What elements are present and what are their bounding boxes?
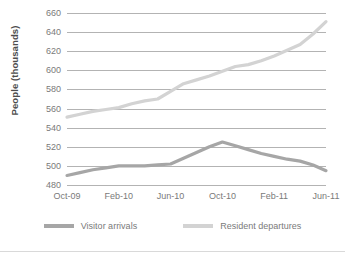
y-axis-title: People (thousands) <box>9 0 20 151</box>
x-axis-tick-label: Jun-10 <box>157 191 185 201</box>
gridline <box>67 185 326 186</box>
series-lines <box>67 13 326 185</box>
legend-item-resident-departures[interactable]: Resident departures <box>183 221 301 231</box>
chart-legend: Visitor arrivalsResident departures <box>0 221 345 231</box>
y-axis-tick-label: 520 <box>46 142 61 152</box>
legend-label: Visitor arrivals <box>81 221 137 231</box>
y-axis-tick-label: 600 <box>46 65 61 75</box>
legend-label: Resident departures <box>220 221 301 231</box>
x-axis-tick-label: Feb-10 <box>105 191 134 201</box>
series-line-resident-departures <box>67 22 326 118</box>
legend-item-visitor-arrivals[interactable]: Visitor arrivals <box>44 221 137 231</box>
x-axis-tick-label: Feb-11 <box>260 191 288 201</box>
x-axis-tick-label: Oct-09 <box>53 191 80 201</box>
legend-swatch-icon <box>183 224 213 228</box>
y-axis-tick-label: 580 <box>46 84 61 94</box>
y-axis-tick-label: 660 <box>46 8 61 18</box>
y-axis-tick-label: 540 <box>46 123 61 133</box>
legend-swatch-icon <box>44 224 74 228</box>
chart-title <box>6 0 126 7</box>
y-axis-tick-label: 560 <box>46 104 61 114</box>
y-axis-tick-label: 480 <box>46 180 61 190</box>
footer-divider <box>0 251 345 252</box>
y-axis-tick-label: 500 <box>46 161 61 171</box>
x-axis-tick-label: Jun-11 <box>313 191 340 201</box>
line-chart: People (thousands) 660640620600580560540… <box>0 0 345 264</box>
series-line-visitor-arrivals <box>67 142 326 175</box>
y-axis-tick-label: 620 <box>46 46 61 56</box>
plot-area: 660640620600580560540520500480 Oct-09Feb… <box>67 13 326 185</box>
y-axis-tick-label: 640 <box>46 27 61 37</box>
x-axis-tick-label: Oct-10 <box>209 191 236 201</box>
